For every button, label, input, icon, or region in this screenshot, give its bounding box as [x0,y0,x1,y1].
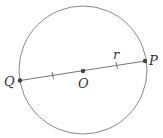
circle-diagram: Q O P r [0,0,163,138]
label-q: Q [4,74,15,89]
point-p [143,59,147,63]
label-r: r [113,47,120,62]
label-p: P [148,53,158,68]
point-q [18,78,22,82]
label-o: O [78,76,89,91]
point-o [81,69,85,73]
